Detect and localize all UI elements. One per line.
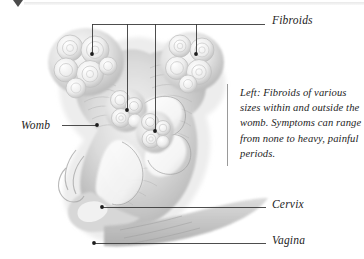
caption-text: Left: Fibroids of various sizes within a…: [240, 85, 362, 161]
figure-panel: Fibroids Womb Cervix Vagina Left: Fibroi…: [0, 0, 364, 259]
label-womb: Womb: [21, 119, 50, 131]
label-vagina: Vagina: [272, 234, 305, 246]
label-fibroids: Fibroids: [272, 14, 313, 26]
label-cervix: Cervix: [272, 198, 304, 210]
caption-divider: [227, 84, 228, 166]
